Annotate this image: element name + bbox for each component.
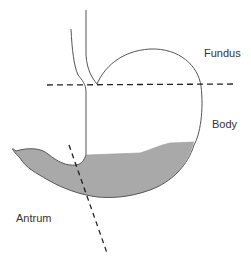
label-antrum: Antrum [16, 212, 51, 224]
esophagus-right-wall [86, 10, 97, 84]
esophagus-left-wall [71, 29, 86, 155]
stomach-diagram: Fundus Body Antrum [0, 0, 251, 256]
label-body: Body [212, 118, 238, 130]
label-fundus: Fundus [204, 47, 241, 59]
fundus-body-divider [47, 84, 236, 85]
gastric-contents-fill [13, 142, 194, 197]
